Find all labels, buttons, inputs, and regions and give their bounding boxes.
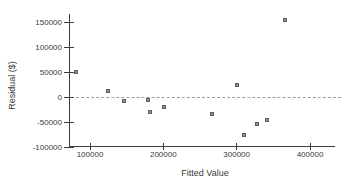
y-axis-title: Residual ($)	[7, 46, 18, 126]
y-axis-tick	[64, 97, 74, 98]
y-axis-tick	[64, 72, 74, 73]
data-point	[162, 105, 166, 109]
x-tick-label: 400000	[285, 150, 335, 160]
y-axis-tick	[64, 122, 74, 123]
y-tick-label: -50000	[18, 118, 62, 128]
x-tick-label: 100000	[65, 150, 115, 160]
data-point	[242, 133, 246, 137]
data-point	[106, 89, 110, 93]
data-point	[148, 110, 152, 114]
data-point	[255, 122, 259, 126]
y-axis-tick	[64, 147, 74, 148]
data-point	[146, 98, 150, 102]
data-point	[122, 99, 126, 103]
y-axis-line	[69, 14, 70, 146]
x-tick-label: 200000	[138, 150, 188, 160]
x-axis-tick	[90, 143, 91, 150]
data-point	[283, 18, 287, 22]
data-point	[74, 70, 78, 74]
y-tick-label: 100000	[18, 43, 62, 53]
x-tick-label: 300000	[212, 150, 262, 160]
residual-vs-fitted-plot: Residual ($) Fitted Value -100000-500000…	[0, 0, 344, 193]
y-tick-label: -100000	[18, 143, 62, 153]
data-point	[235, 83, 239, 87]
y-axis-tick	[64, 22, 74, 23]
y-axis-tick	[64, 47, 74, 48]
x-axis-title: Fitted Value	[165, 168, 245, 179]
x-axis-line	[69, 146, 335, 147]
x-axis-tick	[236, 143, 237, 150]
x-axis-tick	[310, 143, 311, 150]
x-axis-tick	[163, 143, 164, 150]
data-point	[265, 118, 269, 122]
y-tick-label: 50000	[18, 68, 62, 78]
y-tick-label: 150000	[18, 18, 62, 28]
y-tick-label: 0	[18, 93, 62, 103]
zero-reference-line	[71, 97, 341, 98]
data-point	[210, 112, 214, 116]
